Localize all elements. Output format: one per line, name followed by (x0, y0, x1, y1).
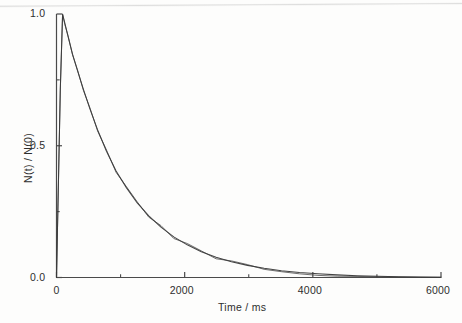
axis-lines (56, 14, 441, 278)
x-axis-title: Time / ms (218, 301, 266, 313)
x-axis-tick-label: 4000 (298, 284, 322, 296)
y-axis-tick-label: 1.0 (30, 7, 45, 19)
y-axis-title: N(t) / N(0) (22, 133, 34, 183)
plot-canvas (0, 0, 462, 323)
series-line-fit (57, 14, 442, 278)
x-axis-tick-label: 6000 (426, 284, 450, 296)
x-axis-tick-label: 0 (54, 284, 60, 296)
x-axis-tick-label: 2000 (170, 284, 194, 296)
decay-curve-figure: 0200040006000 0.00.51.0 Time / ms N(t) /… (0, 0, 462, 323)
y-axis-tick-label: 0.0 (30, 271, 45, 283)
data-series-layer (57, 14, 442, 278)
series-line-data (57, 15, 442, 278)
